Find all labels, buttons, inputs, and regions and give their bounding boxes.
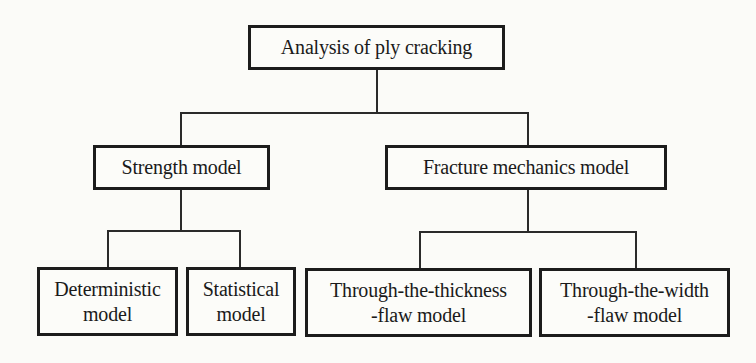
connector-strength-down	[180, 190, 182, 230]
connector-root-down	[376, 70, 378, 112]
connector-fracture-down	[527, 190, 529, 231]
node-strength-model-label: Strength model	[122, 155, 242, 180]
node-through-thickness-line1: Through-the-thickness	[330, 278, 507, 303]
node-statistical-line1: Statistical	[203, 277, 280, 302]
connector-to-through-thickness	[419, 231, 421, 268]
node-deterministic-line2: model	[83, 302, 132, 327]
connector-to-fracture	[527, 112, 529, 146]
connector-to-strength	[180, 112, 182, 146]
connector-level1-horizontal	[180, 112, 528, 114]
node-fracture-mechanics-model: Fracture mechanics model	[385, 145, 667, 190]
root-node-label: Analysis of ply cracking	[281, 35, 472, 60]
root-node-analysis-of-ply-cracking: Analysis of ply cracking	[248, 25, 505, 70]
node-through-width-line2: -flaw model	[587, 303, 682, 328]
node-statistical-model: Statistical model	[186, 267, 296, 336]
node-strength-model: Strength model	[93, 145, 270, 190]
node-fracture-mechanics-model-label: Fracture mechanics model	[423, 155, 629, 180]
connector-strength-children-horizontal	[107, 230, 240, 232]
node-through-width-line1: Through-the-width	[560, 278, 709, 303]
node-through-thickness-line2: -flaw model	[371, 303, 466, 328]
node-through-the-width-flaw-model: Through-the-width -flaw model	[539, 268, 730, 337]
connector-to-through-width	[635, 231, 637, 268]
node-deterministic-model: Deterministic model	[37, 267, 178, 336]
node-deterministic-line1: Deterministic	[54, 277, 160, 302]
connector-to-deterministic	[107, 230, 109, 268]
connector-to-statistical	[239, 230, 241, 268]
node-through-the-thickness-flaw-model: Through-the-thickness -flaw model	[305, 268, 532, 337]
connector-fracture-children-horizontal	[419, 231, 636, 233]
node-statistical-line2: model	[217, 302, 266, 327]
